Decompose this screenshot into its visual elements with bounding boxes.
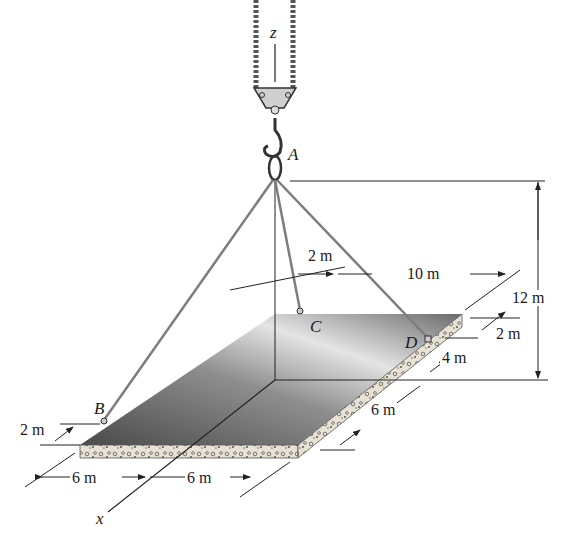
dim-front-left: 6 m: [70, 470, 98, 486]
dim-C-to-D: 10 m: [405, 266, 441, 282]
dim-slab-depth: 6 m: [369, 402, 397, 418]
dim-front-right: 6 m: [185, 470, 213, 486]
dim-B-edge-offset: 2 m: [18, 422, 46, 438]
z-axis-label: z: [270, 24, 277, 41]
slab-front-edge: [80, 445, 298, 458]
crane-rope: [256, 0, 293, 88]
point-A-label: A: [288, 146, 298, 163]
x-axis-label: x: [96, 510, 104, 527]
pulley-block: [254, 88, 296, 108]
dim-D-edge-offset: 2 m: [494, 326, 522, 342]
dim-height-A: 12 m: [510, 290, 546, 306]
hook-icon: [264, 118, 281, 157]
point-D-label: D: [405, 334, 417, 351]
dim-D-to-origin: 4 m: [440, 350, 468, 366]
point-C-label: C: [310, 318, 321, 335]
dim-C-offset: 2 m: [306, 248, 334, 264]
slab-lift-diagram: [0, 0, 575, 544]
point-B-label: B: [94, 400, 104, 417]
ring-A: [269, 156, 281, 180]
